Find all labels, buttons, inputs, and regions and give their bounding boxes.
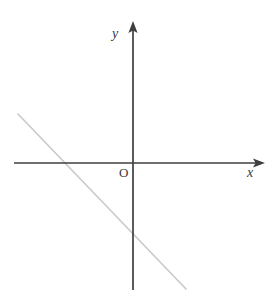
origin-label: O: [119, 166, 128, 179]
x-axis-label: x: [247, 166, 253, 180]
plotted-line: [18, 114, 186, 289]
y-axis-label: y: [112, 27, 118, 41]
coordinate-plane-svg: [0, 0, 277, 307]
figure-canvas: y x O: [0, 0, 277, 307]
